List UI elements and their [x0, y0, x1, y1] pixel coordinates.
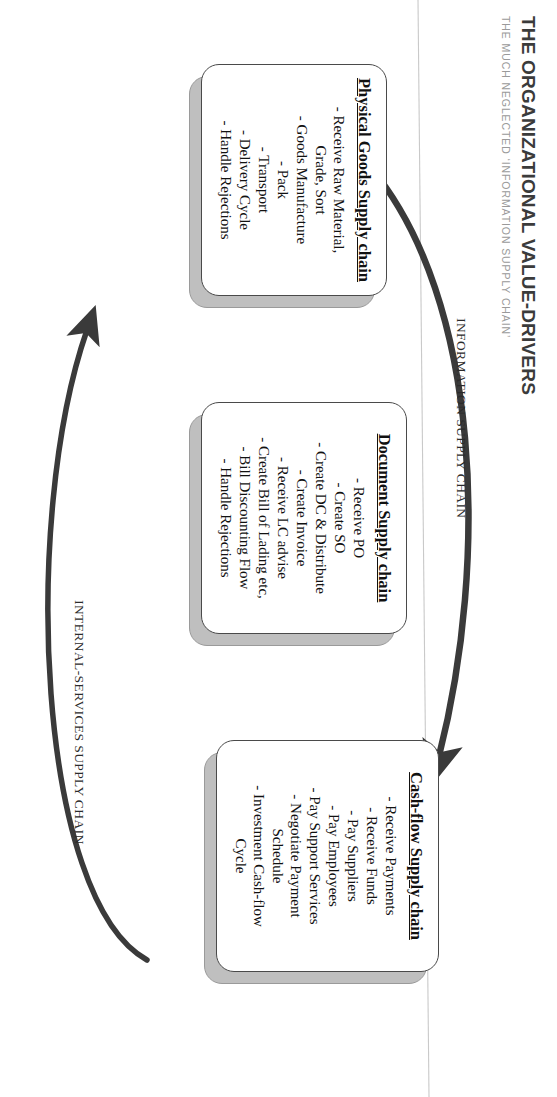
list-item: - Create SO: [331, 413, 349, 623]
list-item: - Bill Discounting Flow: [236, 413, 254, 623]
list-item: - Handle Rejections: [217, 413, 235, 623]
box-cash-flow-supply-chain: Cash-flow Supply chain - Receive Payment…: [216, 740, 439, 972]
list-item: - Receive Funds: [363, 751, 381, 961]
list-item: - Negotiate Payment Schedule: [269, 751, 305, 961]
box-physical-goods-supply-chain: Physical Goods Supply chain - Receive Ra…: [201, 64, 387, 296]
list-item: - Receive LC advise: [274, 413, 292, 623]
box-document-supply-chain: Document Supply chain - Receive PO - Cre…: [201, 402, 407, 634]
list-item: - Transport: [255, 75, 273, 285]
list-item: - Investment Cash-flow Cycle: [232, 751, 268, 961]
box-body: Document Supply chain - Receive PO - Cre…: [201, 402, 407, 634]
page-subtitle: THE MUCH NEGLECTED ‘INFORMATION SUPPLY C…: [500, 16, 512, 656]
list-item: - Create DC & Distribute: [312, 413, 330, 623]
list-item: - Pay Suppliers: [344, 751, 362, 961]
box-body: Cash-flow Supply chain - Receive Payment…: [216, 740, 439, 972]
internal-services-supply-chain-arrow: [48, 330, 147, 960]
list-item: - Pay Support Services: [306, 751, 324, 961]
list-item: - Receive Payments: [382, 751, 400, 961]
box-item-list: - Receive PO - Create SO - Create DC & D…: [217, 413, 368, 623]
list-item: - Delivery Cycle: [236, 75, 254, 285]
list-item: - Receive PO: [350, 413, 368, 623]
box-item-list: - Receive Payments - Receive Funds - Pay…: [232, 751, 400, 961]
list-item: - Pay Employees: [325, 751, 343, 961]
box-body: Physical Goods Supply chain - Receive Ra…: [201, 64, 387, 296]
box-title: Physical Goods Supply chain: [355, 75, 374, 285]
information-supply-chain-label: INFORMATION SUPPLY CHAIN: [453, 318, 469, 519]
list-item: - Receive Raw Material, Grade, Sort: [312, 75, 348, 285]
header: THE ORGANIZATIONAL VALUE-DRIVERS THE MUC…: [500, 16, 539, 656]
list-item: - Handle Rejections: [217, 75, 235, 285]
list-item: - Goods Manufacture: [293, 75, 311, 285]
page-title: THE ORGANIZATIONAL VALUE-DRIVERS: [517, 16, 539, 656]
internal-services-supply-chain-label: INTERNAL-SERVICES SUPPLY CHAIN: [71, 600, 87, 845]
poster-canvas: THE ORGANIZATIONAL VALUE-DRIVERS THE MUC…: [0, 0, 557, 1097]
list-item: - Create Bill of Lading etc,: [255, 413, 273, 623]
list-item: - Create Invoice: [293, 413, 311, 623]
box-title: Document Supply chain: [375, 413, 394, 623]
box-item-list: - Receive Raw Material, Grade, Sort - Go…: [217, 75, 348, 285]
list-item: - Pack: [274, 75, 292, 285]
box-title: Cash-flow Supply chain: [407, 751, 426, 961]
